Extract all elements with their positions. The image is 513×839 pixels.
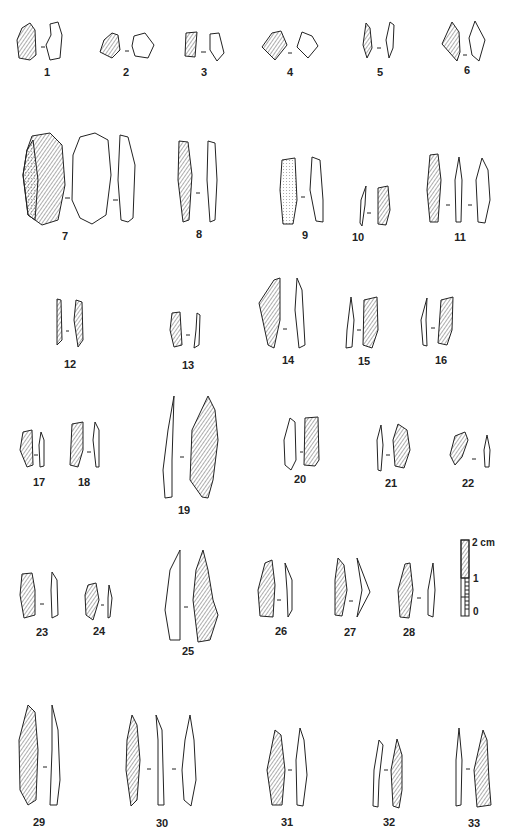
artifact-22: [450, 432, 490, 467]
artifact-17: [20, 430, 44, 467]
figure-number-32: 32: [383, 816, 395, 828]
figure-number-27: 27: [344, 626, 356, 638]
artifact-31: [267, 728, 307, 806]
artifact-13: [170, 312, 200, 348]
artifact-16: [421, 297, 453, 346]
artifact-28: [398, 563, 435, 618]
artifact-25: [165, 550, 218, 642]
artifact-2: [100, 33, 154, 58]
figure-number-16: 16: [435, 354, 447, 366]
figure-number-12: 12: [64, 358, 76, 370]
figure-number-26: 26: [275, 625, 287, 637]
artifact-10: [360, 186, 390, 226]
artifact-1: [17, 22, 62, 60]
figure-number-4: 4: [287, 66, 293, 78]
artifact-5: [363, 22, 394, 58]
artifact-plate: 1 2 3 4 5 6 7 8 9 10 11 12 13 14 15 16 1…: [0, 0, 513, 839]
figure-number-19: 19: [178, 504, 190, 516]
figure-number-33: 33: [468, 817, 480, 829]
figure-number-17: 17: [33, 476, 45, 488]
figure-number-13: 13: [182, 359, 194, 371]
artifact-19: [163, 396, 218, 498]
figure-number-7: 7: [62, 230, 68, 242]
figure-number-3: 3: [201, 66, 207, 78]
artifact-23: [20, 572, 58, 618]
artifact-20: [284, 417, 319, 470]
artifact-24: [85, 583, 112, 620]
figure-number-18: 18: [78, 476, 90, 488]
artifact-8: [178, 141, 217, 222]
artifact-18: [70, 422, 99, 467]
artifact-26: [258, 560, 292, 617]
figure-number-24: 24: [93, 625, 105, 637]
artifact-4: [262, 31, 318, 60]
figure-number-20: 20: [294, 473, 306, 485]
figure-number-10: 10: [352, 231, 364, 243]
figure-number-6: 6: [464, 64, 470, 76]
artifact-9: [280, 157, 323, 224]
figure-number-22: 22: [462, 477, 474, 489]
artifact-30: [126, 715, 196, 806]
figure-number-30: 30: [156, 817, 168, 829]
artifact-27: [335, 558, 370, 617]
figure-number-1: 1: [44, 66, 50, 78]
figure-number-25: 25: [182, 645, 194, 657]
artifact-29: [19, 705, 60, 805]
artifact-15: [346, 297, 378, 348]
figure-number-31: 31: [281, 816, 293, 828]
figure-number-29: 29: [33, 816, 45, 828]
figure-number-23: 23: [36, 626, 48, 638]
artifact-32: [373, 739, 402, 808]
figure-number-14: 14: [282, 354, 294, 366]
artifact-3: [185, 32, 224, 61]
artifact-7: [23, 133, 135, 225]
figure-number-15: 15: [358, 355, 370, 367]
artifact-14: [259, 278, 305, 348]
artifact-21: [377, 424, 410, 471]
figure-number-11: 11: [454, 231, 466, 243]
figure-number-8: 8: [196, 228, 202, 240]
figure-number-2: 2: [123, 66, 129, 78]
scale-bar: [461, 540, 469, 616]
figure-number-9: 9: [302, 229, 308, 241]
scale-label-0: 0: [473, 606, 479, 617]
figure-number-28: 28: [403, 626, 415, 638]
artifact-6: [442, 21, 485, 61]
artifact-12: [57, 299, 83, 347]
figure-number-5: 5: [377, 66, 383, 78]
figure-number-21: 21: [385, 477, 397, 489]
artifact-33: [456, 728, 491, 807]
scale-label-2cm: 2 cm: [472, 537, 495, 548]
scale-label-1: 1: [473, 573, 479, 584]
lithic-drawings: [0, 0, 513, 839]
artifact-11: [427, 154, 490, 223]
